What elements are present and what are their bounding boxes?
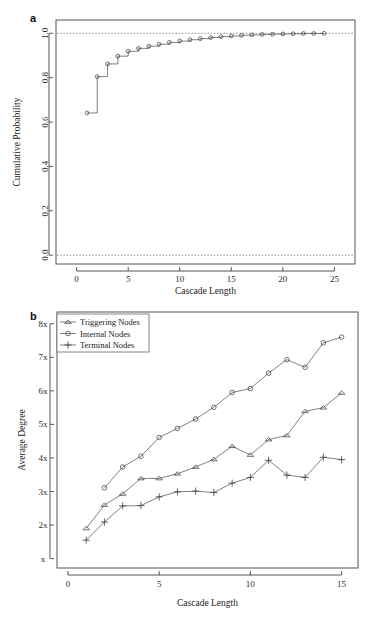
panel-a-frame — [56, 20, 355, 264]
y-tick-label: 6x — [39, 386, 49, 396]
data-point-plus — [338, 456, 345, 463]
panel-a-x-axis-title: Cascade Length — [175, 286, 236, 296]
panel-a-step-line — [87, 33, 324, 113]
panel-b-series — [83, 335, 346, 544]
x-tick-label: 15 — [337, 579, 347, 589]
x-tick-label: 15 — [227, 274, 237, 284]
data-point-plus — [156, 493, 163, 500]
x-tick-label: 5 — [157, 579, 162, 589]
x-tick-label: 20 — [278, 274, 288, 284]
data-point-plus — [192, 488, 199, 495]
panel-a-y-axis: 0.00.20.40.60.81.0Cumulative Probability — [12, 27, 53, 261]
panel-b-y-axis: x2x3x4x5x6x7x8xAverage Degree — [17, 319, 54, 564]
y-tick-label: 0.2 — [40, 205, 50, 216]
panel-b-x-axis: 051015Cascade Length — [66, 571, 347, 608]
data-point-circle — [339, 335, 344, 340]
data-point-plus — [229, 480, 236, 487]
data-point-plus — [283, 471, 290, 478]
x-tick-label: 10 — [246, 579, 256, 589]
panel-a: a0.00.20.40.60.81.0Cumulative Probabilit… — [12, 12, 355, 296]
series-triggering-nodes — [83, 391, 345, 530]
y-tick-label: 3x — [39, 487, 49, 497]
legend-item-label: Triggering Nodes — [80, 317, 140, 327]
data-point-plus — [174, 488, 181, 495]
x-tick-label: 25 — [330, 274, 340, 284]
data-point-plus — [210, 489, 217, 496]
panel-a-series — [85, 31, 326, 114]
y-tick-label: 0.8 — [40, 72, 50, 84]
scientific-figure: a0.00.20.40.60.81.0Cumulative Probabilit… — [0, 0, 374, 639]
y-tick-label: 8x — [39, 319, 49, 329]
data-point-plus — [137, 502, 144, 509]
y-tick-label: 4x — [39, 453, 49, 463]
figure-canvas: a0.00.20.40.60.81.0Cumulative Probabilit… — [0, 0, 374, 639]
series-line — [86, 457, 341, 540]
panel-a-x-axis: 0510152025Cascade Length — [74, 267, 339, 296]
x-tick-label: 0 — [66, 579, 71, 589]
panel-a-label: a — [30, 12, 37, 24]
y-tick-label: x — [41, 554, 46, 564]
series-terminal-nodes — [83, 454, 346, 544]
panel-b-label: b — [30, 310, 37, 322]
data-point-circle — [102, 486, 107, 491]
panel-a-y-axis-title: Cumulative Probability — [12, 97, 22, 186]
panel-b-x-axis-title: Cascade Length — [177, 598, 238, 608]
x-tick-label: 0 — [74, 274, 79, 284]
y-tick-label: 0.6 — [40, 116, 50, 128]
panel-b: bx2x3x4x5x6x7x8xAverage Degree051015Casc… — [17, 310, 358, 608]
panel-b-legend: Triggering NodesInternal NodesTerminal N… — [57, 314, 149, 352]
y-tick-label: 0.4 — [40, 160, 50, 172]
x-tick-label: 10 — [175, 274, 185, 284]
x-tick-label: 5 — [126, 274, 131, 284]
data-point-triangle — [338, 391, 345, 395]
y-tick-label: 0.0 — [40, 249, 50, 261]
legend-item-label: Terminal Nodes — [80, 340, 134, 350]
panel-b-y-axis-title: Average Degree — [17, 409, 27, 470]
y-tick-label: 2x — [39, 520, 49, 530]
y-tick-label: 1.0 — [40, 27, 50, 39]
y-tick-label: 5x — [39, 419, 49, 429]
y-tick-label: 7x — [39, 352, 49, 362]
legend-item-label: Internal Nodes — [80, 329, 130, 339]
